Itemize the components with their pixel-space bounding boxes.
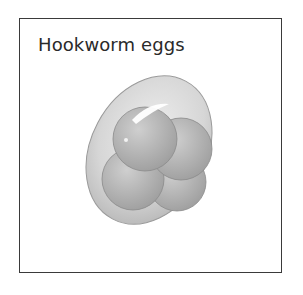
figure-title: Hookworm eggs bbox=[38, 34, 185, 55]
hookworm-egg-illustration bbox=[64, 70, 234, 230]
